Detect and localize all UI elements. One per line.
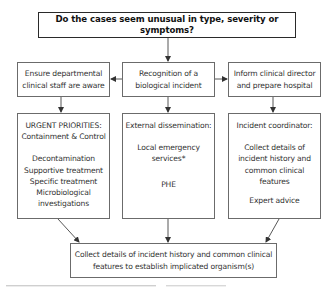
box-item: features [259,176,289,187]
box-heading: URGENT PRIORITIES: [25,120,101,131]
box-item-expert-advice: Expert advice [249,195,299,206]
ensure-staff-aware-box: Ensure departmental clinical staff are a… [17,62,110,97]
collect-details-box: Collect details of incident history and … [70,243,277,278]
external-dissemination-box: External dissemination: Local emergency … [122,113,215,219]
box-heading: External dissemination: [125,120,211,131]
footnote-cutoff [6,283,326,289]
box-line: and prepare hospital [237,80,313,91]
recognition-box: Recognition of a biological incident [122,62,215,97]
inform-director-box: Inform clinical director and prepare hos… [228,62,321,97]
box-item: Specific treatment [30,176,97,187]
arrow-left-to-bottom [58,219,79,242]
box-item: Supportive treatment [24,165,103,176]
box-item: services* [152,153,186,164]
box-item-phe: PHE [161,179,176,190]
box-heading: Incident coordinator: [237,120,313,131]
box-line: Ensure departmental [25,68,102,79]
box-line: Collect details of incident history and … [75,249,272,260]
box-line: Recognition of a [139,68,198,79]
question-text: Do the cases seem unusual in type, sever… [39,14,295,36]
box-item: incident history and [238,153,311,164]
box-item: investigations [38,198,89,209]
box-line: features to establish implicated organis… [93,261,254,272]
urgent-priorities-box: URGENT PRIORITIES: Containment & Control… [17,113,110,219]
box-line: Inform clinical director [234,68,316,79]
box-heading: Containment & Control [21,131,105,142]
question-box: Do the cases seem unusual in type, sever… [38,12,296,38]
box-line: clinical staff are aware [22,80,104,91]
box-line: biological incident [135,80,201,91]
box-item: Collect details of [244,142,305,153]
arrow-right-to-bottom [266,219,279,242]
box-item: Decontamination [32,153,95,164]
box-item: common clinical [245,165,305,176]
box-item: Microbiological [36,187,90,198]
incident-coordinator-box: Incident coordinator: Collect details of… [228,113,321,219]
box-item: Local emergency [137,142,200,153]
